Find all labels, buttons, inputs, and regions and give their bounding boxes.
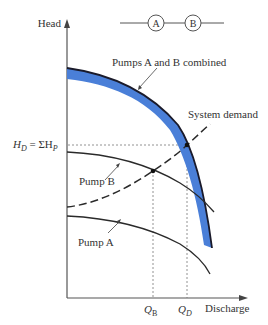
qb-main: Q [144,303,152,315]
pump-curves-diagram: A B Head Discharge Pumps A and B com [0,0,268,325]
hd-label: HD = ΣHP [12,138,58,153]
hd-eq: = ΣH [27,138,53,150]
qd-main: Q [178,303,186,315]
combined-curve-band [67,68,212,248]
pump-a-symbol-label: A [152,18,160,29]
pump-b-symbol-label: B [190,18,197,29]
x-axis-arrow-icon [239,295,248,301]
design-operating-point [185,143,190,148]
y-axis-label: Head [38,17,62,29]
guide-lines [68,145,187,298]
qb-label: QB [144,303,157,318]
y-axis-arrow-icon [64,19,70,28]
qb-sub: B [152,309,157,318]
combined-label: Pumps A and B combined [112,56,227,68]
combined-curve [67,68,212,248]
x-axis-label: Discharge [205,302,250,314]
pump-a-label: Pump A [78,236,114,248]
combined-leader-line [139,68,157,88]
pump-a-leader-line [108,221,120,233]
qd-label: QD [178,303,192,318]
system-demand-label: System demand [188,108,258,120]
pump-b-operating-point [151,169,156,174]
pump-b-label: Pump B [79,175,115,187]
series-pump-schematic: A B [120,15,224,31]
hp-sub: P [52,144,58,153]
qd-sub: D [185,309,192,318]
